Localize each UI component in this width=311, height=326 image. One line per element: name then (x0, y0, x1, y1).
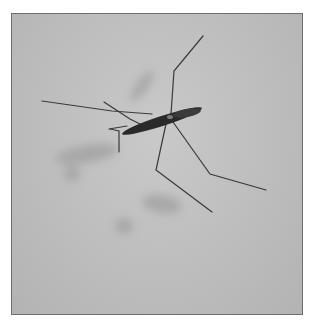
water-strider-photo (12, 14, 303, 315)
photo-frame (11, 13, 303, 315)
